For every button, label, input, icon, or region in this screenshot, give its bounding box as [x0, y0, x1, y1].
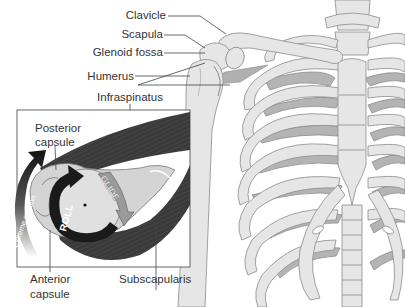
label-scapula: Scapula	[100, 29, 163, 41]
label-infraspinatus: Infraspinatus	[95, 92, 165, 104]
label-anterior-capsule-line1: Anterior	[30, 274, 70, 286]
anatomy-illustration: Extreme rotation ROLL GLIDE	[0, 0, 405, 307]
label-posterior-capsule-line1: Posterior	[35, 123, 81, 135]
label-humerus: Humerus	[70, 71, 134, 83]
label-anterior-capsule-line2: capsule	[30, 289, 70, 301]
label-posterior-capsule-line2: capsule	[35, 137, 75, 149]
label-clavicle: Clavicle	[100, 10, 166, 22]
label-subscapularis: Subscapularis	[119, 274, 191, 286]
shoulder-anatomy-diagram: Extreme rotation ROLL GLIDE Clavicle Sca…	[0, 0, 405, 307]
label-glenoid-fossa: Glenoid fossa	[70, 47, 163, 59]
